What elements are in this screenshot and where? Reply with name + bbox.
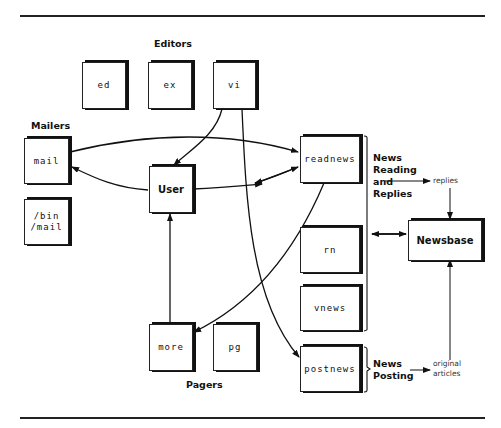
node-user-label: User [158,184,184,195]
node-bin-mail[interactable]: /bin /mail [24,199,69,245]
node-pg[interactable]: pg [213,324,257,371]
edge-user-readnews [193,184,262,189]
node-more[interactable]: more [149,324,193,371]
node-newsbase-label: Newsbase [417,235,474,246]
node-vnews-label: vnews [314,303,346,314]
edge-user-mail [72,167,148,190]
node-ex-label: ex [164,80,177,91]
node-pg-label: pg [229,342,242,353]
node-ed[interactable]: ed [82,62,126,109]
node-mail-label: mail [34,156,60,167]
news-posting-label: News Posting [373,358,414,382]
node-rn-label: rn [324,245,337,256]
node-vnews[interactable]: vnews [300,286,360,331]
editors-label: Editors [154,38,192,50]
pagers-label: Pagers [186,379,223,391]
node-vi[interactable]: vi [213,62,256,109]
edge-mail-readnews [70,137,298,152]
node-ex[interactable]: ex [148,62,192,109]
node-rn[interactable]: rn [300,227,360,273]
brace-news-reading [364,136,367,331]
node-user[interactable]: User [149,166,193,213]
node-vi-label: vi [228,80,241,91]
node-readnews-label: readnews [304,154,355,165]
replies-label: replies [433,176,458,186]
node-mail[interactable]: mail [24,138,69,184]
brace-news-posting [364,347,370,392]
mailers-label: Mailers [31,120,70,132]
node-newsbase[interactable]: Newsbase [408,220,482,261]
node-postnews-label: postnews [304,364,355,375]
original-articles-label: original articles [433,359,461,379]
node-ed-label: ed [98,80,111,91]
edge-vi-postnews [242,109,299,357]
node-readnews[interactable]: readnews [300,136,360,183]
node-more-label: more [158,342,184,353]
node-bin-mail-label: /bin /mail [30,211,62,233]
news-reading-label: News Reading and Replies [373,152,417,200]
node-postnews[interactable]: postnews [300,346,360,392]
